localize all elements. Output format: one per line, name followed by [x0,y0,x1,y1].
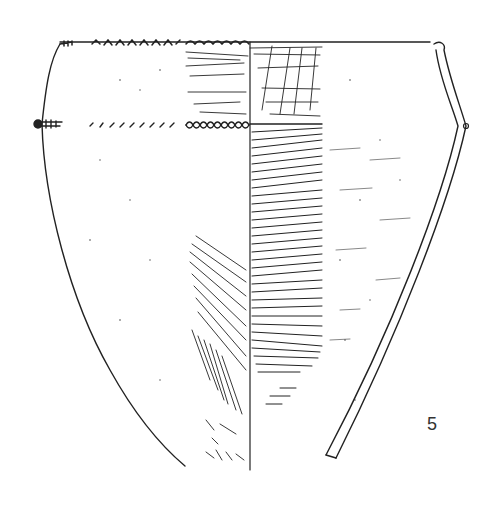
profile-inner-wall [326,50,458,455]
figure-number-label: 5 [427,414,437,435]
interior-texture-strokes [330,148,410,340]
interior-grid-strokes [250,46,322,116]
interior-hatching [252,128,322,404]
rim-decoration [60,40,249,46]
profile-base-cap [326,455,336,458]
upper-exterior-hatching [186,52,248,114]
exterior-hatching [190,236,246,460]
pottery-vessel-drawing [0,0,480,505]
carination-decoration [34,120,322,128]
surface-stipple [89,69,401,401]
vessel-outline-left [42,44,185,466]
